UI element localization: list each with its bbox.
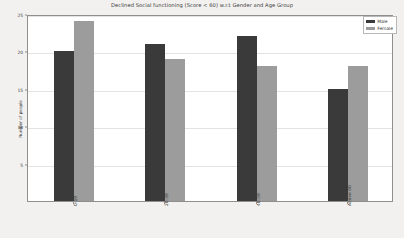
x-tick: Above 60 — [327, 202, 367, 238]
chart-legend: MaleFemale — [363, 16, 397, 34]
bar-group — [328, 16, 368, 201]
y-tick-label: 15 — [17, 87, 23, 92]
bars-layer — [28, 16, 392, 201]
legend-item-female[interactable]: Female — [366, 26, 393, 31]
bar-female-above-60 — [348, 66, 368, 201]
plot-area — [27, 15, 393, 202]
bar-female-20-39 — [165, 59, 185, 201]
x-axis-ticks: 0-1920-3940-59Above 60 — [27, 202, 393, 238]
legend-label: Male — [377, 19, 387, 24]
bar-female-0-19 — [74, 21, 94, 201]
legend-swatch-icon — [366, 20, 375, 23]
bar-group — [145, 16, 185, 201]
x-tick-label: Above 60 — [347, 185, 352, 206]
x-tick: 20-39 — [144, 202, 184, 238]
legend-swatch-icon — [366, 27, 375, 30]
x-tick: 0-19 — [53, 202, 93, 238]
bar-group — [237, 16, 277, 201]
x-tick-label: 20-39 — [164, 193, 169, 206]
legend-item-male[interactable]: Male — [366, 19, 393, 24]
bar-male-40-59 — [237, 36, 257, 201]
bar-female-40-59 — [257, 66, 277, 201]
x-tick-label: 40-59 — [256, 193, 261, 206]
bar-group — [54, 16, 94, 201]
legend-label: Female — [377, 26, 393, 31]
y-axis-ticks: 510152025 — [0, 15, 27, 202]
chart-figure: Declined Social functioning (Score < 60)… — [0, 0, 404, 238]
y-tick-label: 5 — [20, 162, 23, 167]
y-tick-label: 25 — [17, 13, 23, 18]
bar-male-20-39 — [145, 44, 165, 201]
chart-title: Declined Social functioning (Score < 60)… — [0, 2, 404, 8]
x-tick: 40-59 — [236, 202, 276, 238]
bar-male-0-19 — [54, 51, 74, 201]
y-tick-label: 20 — [17, 50, 23, 55]
y-tick-label: 10 — [17, 125, 23, 130]
bar-male-above-60 — [328, 89, 348, 201]
x-tick-label: 0-19 — [73, 196, 78, 206]
